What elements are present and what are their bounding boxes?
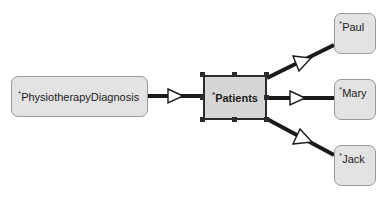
hollow-triangle-arrowhead-icon (293, 56, 311, 71)
node-label: *Paul (335, 14, 364, 33)
edge-diagnosis-to-patients[interactable] (148, 89, 203, 103)
selection-handle-nw[interactable] (200, 72, 205, 77)
edge-patients-to-mary[interactable] (267, 91, 334, 105)
node-physiotherapy-diagnosis[interactable]: *PhysiotherapyDiagnosis (11, 76, 148, 117)
edge-paul-to-patients[interactable] (267, 45, 334, 78)
node-label-text: Paul (342, 21, 364, 33)
selection-handle-w[interactable] (200, 95, 205, 100)
node-label-text: PhysiotherapyDiagnosis (21, 91, 139, 103)
selection-handle-s[interactable] (232, 117, 237, 122)
node-label-text: Mary (342, 87, 366, 99)
selection-handle-se[interactable] (264, 117, 269, 122)
edge-jack-to-patients[interactable] (267, 119, 334, 155)
diagram-canvas[interactable]: *PhysiotherapyDiagnosis *Patients *Paul … (0, 0, 389, 203)
selection-handle-sw[interactable] (200, 117, 205, 122)
hollow-triangle-arrowhead-icon (290, 91, 305, 105)
node-jack[interactable]: *Jack (334, 145, 376, 186)
node-label: *Jack (335, 146, 365, 165)
node-paul[interactable]: *Paul (334, 13, 376, 54)
node-label: *PhysiotherapyDiagnosis (12, 90, 139, 103)
node-patients[interactable]: *Patients (203, 75, 267, 120)
node-label-text: Patients (215, 92, 258, 104)
hollow-triangle-arrowhead-icon (293, 129, 312, 144)
selection-handle-ne[interactable] (264, 72, 269, 77)
node-label: *Mary (335, 80, 367, 99)
selection-handle-e[interactable] (264, 95, 269, 100)
hollow-triangle-arrowhead-icon (168, 89, 183, 103)
node-label: *Patients (212, 91, 258, 104)
selection-handle-n[interactable] (232, 72, 237, 77)
node-mary[interactable]: *Mary (334, 79, 376, 120)
node-label-text: Jack (342, 153, 365, 165)
